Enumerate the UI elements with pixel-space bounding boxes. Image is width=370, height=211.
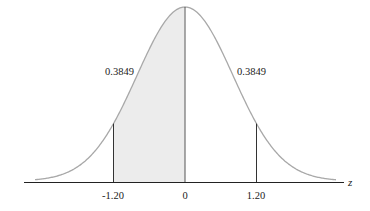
area-label-right: 0.3849 (237, 66, 266, 77)
shaded-area (114, 7, 186, 182)
normal-curve-chart: z -1.20 0 1.20 0.3849 0.3849 (0, 0, 370, 211)
tick-label-pos: 1.20 (247, 190, 265, 201)
area-label-left: 0.3849 (105, 66, 134, 77)
tick-label-zero: 0 (182, 190, 187, 201)
tick-label-neg: -1.20 (102, 190, 124, 201)
axis-label-z: z (347, 176, 353, 188)
